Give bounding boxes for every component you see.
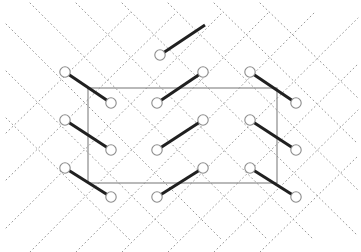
atom-circle xyxy=(152,98,162,108)
atom-circle xyxy=(198,67,208,77)
lattice-figure xyxy=(0,0,361,252)
atom-circle xyxy=(155,50,165,60)
atom-circle xyxy=(291,145,301,155)
atom-circle xyxy=(106,192,116,202)
figure-background xyxy=(0,0,361,252)
atom-circle xyxy=(152,192,162,202)
atom-circle xyxy=(291,192,301,202)
lattice-canvas xyxy=(0,0,361,252)
atom-circle xyxy=(245,67,255,77)
atom-circle xyxy=(198,115,208,125)
atom-circle xyxy=(245,115,255,125)
atom-circle xyxy=(60,115,70,125)
atom-circle xyxy=(106,145,116,155)
atom-circle xyxy=(106,98,116,108)
atom-circle xyxy=(152,145,162,155)
atom-circle xyxy=(60,163,70,173)
atom-circle xyxy=(198,163,208,173)
atom-circle xyxy=(245,163,255,173)
atom-circle xyxy=(60,67,70,77)
atom-circle xyxy=(291,98,301,108)
